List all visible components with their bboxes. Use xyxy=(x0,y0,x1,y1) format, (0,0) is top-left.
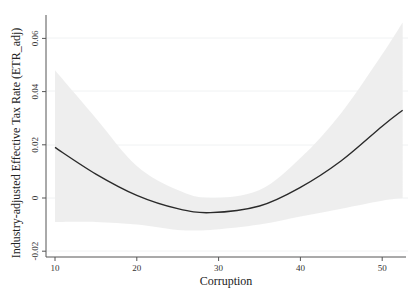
y-tick-label: 0 xyxy=(30,195,40,200)
x-tick-label: 50 xyxy=(378,263,388,273)
y-axis-title: Industry-adjusted Effective Tax Rate (ET… xyxy=(9,28,23,259)
x-tick-label: 30 xyxy=(214,263,224,273)
y-tick-label: 0.06 xyxy=(30,30,40,46)
y-tick-label: 0.02 xyxy=(30,137,40,153)
x-axis: 1020304050 xyxy=(46,257,406,273)
y-tick-label: 0.04 xyxy=(30,83,40,99)
chart: -0.0200.020.040.06 1020304050 Corruption… xyxy=(0,0,418,300)
y-axis: -0.0200.020.040.06 xyxy=(30,15,46,261)
confidence-band xyxy=(55,22,403,230)
x-tick-label: 40 xyxy=(296,263,306,273)
x-tick-label: 10 xyxy=(51,263,61,273)
y-tick-label: -0.02 xyxy=(30,242,40,261)
x-tick-label: 20 xyxy=(132,263,142,273)
x-axis-title: Corruption xyxy=(200,274,253,288)
